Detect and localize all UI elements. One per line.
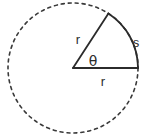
- radius-lower-label: r: [101, 74, 106, 89]
- arc-length-label: s: [133, 35, 140, 50]
- radius-upper-label: r: [76, 32, 81, 47]
- angle-theta-label: θ: [89, 53, 98, 69]
- sector-diagram-svg: r r s θ: [0, 0, 151, 136]
- geometry-figure: r r s θ: [0, 0, 151, 136]
